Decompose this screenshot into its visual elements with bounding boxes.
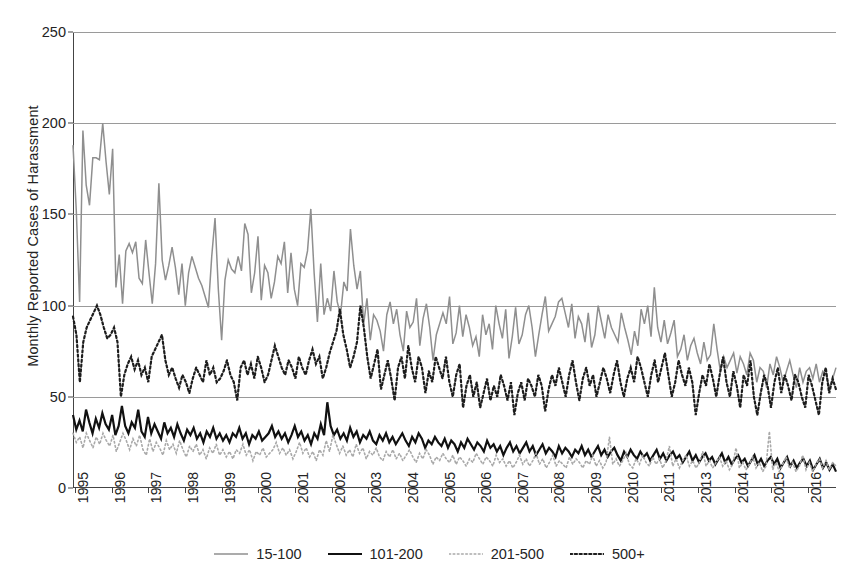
series-line-500plus — [73, 306, 836, 415]
y-tick-label-100: 100 — [42, 298, 66, 314]
y-axis-title: Monthly Reported Cases of Harassment — [25, 66, 41, 406]
legend-label-101-200: 101-200 — [370, 546, 423, 562]
chart-legend: 15-100101-200201-500500+ — [0, 546, 859, 562]
y-tick-label-250: 250 — [42, 24, 66, 40]
legend-item-201-500[interactable]: 201-500 — [449, 546, 544, 562]
series-line-15-100 — [73, 123, 836, 387]
legend-label-201-500: 201-500 — [491, 546, 544, 562]
y-tick-label-200: 200 — [42, 115, 66, 131]
y-tick-label-50: 50 — [50, 389, 66, 405]
chart-figure: Monthly Reported Cases of Harassment 050… — [0, 0, 859, 585]
legend-swatch-500plus — [570, 549, 604, 559]
legend-swatch-101-200 — [328, 549, 362, 559]
series-lines — [73, 32, 836, 488]
legend-label-500plus: 500+ — [612, 546, 645, 562]
legend-item-15-100[interactable]: 15-100 — [214, 546, 301, 562]
legend-label-15-100: 15-100 — [256, 546, 301, 562]
series-line-201-500 — [73, 431, 836, 471]
y-tick-label-0: 0 — [58, 480, 66, 496]
y-tick-label-150: 150 — [42, 206, 66, 222]
legend-swatch-201-500 — [449, 549, 483, 559]
legend-swatch-15-100 — [214, 549, 248, 559]
legend-item-101-200[interactable]: 101-200 — [328, 546, 423, 562]
plot-area: 050100150200250 199519961997199819992000… — [73, 32, 836, 488]
legend-item-500plus[interactable]: 500+ — [570, 546, 645, 562]
